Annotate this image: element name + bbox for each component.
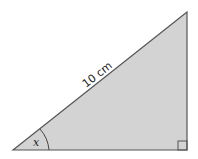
triangle-diagram: 10 cm x bbox=[0, 0, 198, 159]
right-triangle bbox=[13, 12, 187, 150]
angle-label: x bbox=[33, 136, 40, 149]
